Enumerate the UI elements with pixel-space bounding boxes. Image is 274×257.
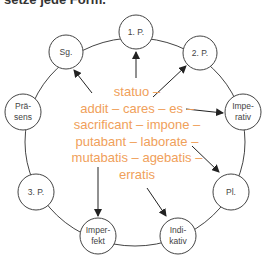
node-2p: 2. P. <box>192 48 208 59</box>
word-line: statuo – <box>72 84 203 101</box>
node-sg: Sg. <box>60 47 73 58</box>
word-line: putabant – laborate – <box>72 134 203 151</box>
node-imperfekt: Imper- fekt <box>86 225 111 247</box>
word-line: addit – cares – es – <box>72 101 203 118</box>
node-3p: 3. P. <box>28 187 44 198</box>
node-pl: Pl. <box>226 187 236 198</box>
arrow-to-indikativ <box>147 188 166 216</box>
node-indikativ: Indi- kativ <box>169 225 186 247</box>
word-line: mutabatis – agebatis – <box>72 150 203 167</box>
node-imperativ: Impe- rativ <box>232 101 254 123</box>
node-praesens: Prä- sens <box>14 101 32 123</box>
word-list: statuo – addit – cares – es – sacrifican… <box>72 84 203 184</box>
word-line: erratis <box>72 167 203 184</box>
node-1p: 1. P. <box>128 27 144 38</box>
word-line: sacrificant – impone – <box>72 117 203 134</box>
